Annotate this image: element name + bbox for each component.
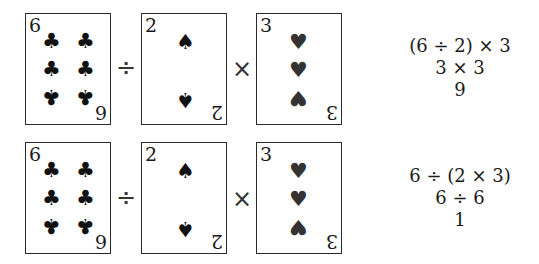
club-icon: ♣ xyxy=(42,188,61,209)
spade-icon: ♠ xyxy=(176,89,195,110)
heart-icon: ♥ xyxy=(289,87,308,108)
card-rank: 3 xyxy=(260,16,272,35)
club-icon: ♣ xyxy=(76,31,95,52)
multiply-operator: × xyxy=(232,187,252,211)
card-rank: 6 xyxy=(29,16,41,35)
card-three-of-hearts: 3 ♥ ♥ ♥ 3 xyxy=(256,13,342,125)
heart-icon: ♥ xyxy=(289,60,308,81)
card-two-of-spades: 2 ♠ ♠ 2 xyxy=(141,13,227,125)
club-icon: ♣ xyxy=(76,215,95,236)
club-icon: ♣ xyxy=(76,160,95,181)
heart-icon: ♥ xyxy=(289,189,308,210)
club-icon: ♣ xyxy=(42,31,61,52)
step-result: 9 xyxy=(385,79,535,101)
club-icon: ♣ xyxy=(42,160,61,181)
spade-icon: ♠ xyxy=(176,32,195,53)
evaluation-steps-1: (6 ÷ 2) × 3 3 × 3 9 xyxy=(385,35,535,101)
card-rank: 2 xyxy=(145,16,157,35)
card-rank: 2 xyxy=(145,145,157,164)
card-rank-inverted: 2 xyxy=(211,232,223,251)
card-three-of-hearts: 3 ♥ ♥ ♥ 3 xyxy=(256,142,342,254)
card-rank-inverted: 3 xyxy=(326,103,338,122)
evaluation-steps-2: 6 ÷ (2 × 3) 6 ÷ 6 1 xyxy=(385,165,535,231)
step-result: 1 xyxy=(385,209,535,231)
spade-icon: ♠ xyxy=(176,161,195,182)
heart-icon: ♥ xyxy=(289,216,308,237)
card-rank-inverted: 2 xyxy=(211,103,223,122)
card-rank-inverted: 6 xyxy=(95,103,107,122)
card-six-of-clubs: 6 ♣ ♣ ♣ ♣ ♣ ♣ 6 xyxy=(25,142,111,254)
heart-icon: ♥ xyxy=(289,161,308,182)
club-icon: ♣ xyxy=(76,188,95,209)
divide-operator: ÷ xyxy=(116,56,136,80)
multiply-operator: × xyxy=(232,57,252,81)
step-expression: 6 ÷ (2 × 3) xyxy=(385,165,535,187)
card-rank-inverted: 6 xyxy=(95,232,107,251)
step-expression: (6 ÷ 2) × 3 xyxy=(385,35,535,57)
heart-icon: ♥ xyxy=(289,32,308,53)
club-icon: ♣ xyxy=(42,215,61,236)
divide-operator: ÷ xyxy=(116,186,136,210)
card-rank: 3 xyxy=(260,145,272,164)
step-simplified: 3 × 3 xyxy=(385,57,535,79)
spade-icon: ♠ xyxy=(176,218,195,239)
club-icon: ♣ xyxy=(76,86,95,107)
club-icon: ♣ xyxy=(42,59,61,80)
card-rank-inverted: 3 xyxy=(326,232,338,251)
club-icon: ♣ xyxy=(76,59,95,80)
club-icon: ♣ xyxy=(42,86,61,107)
card-rank: 6 xyxy=(29,145,41,164)
step-simplified: 6 ÷ 6 xyxy=(385,187,535,209)
card-six-of-clubs: 6 ♣ ♣ ♣ ♣ ♣ ♣ 6 xyxy=(25,13,111,125)
card-two-of-spades: 2 ♠ ♠ 2 xyxy=(141,142,227,254)
